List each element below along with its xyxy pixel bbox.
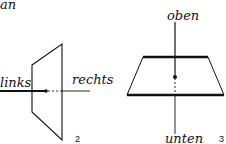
label-oben: oben bbox=[167, 8, 199, 23]
figure-3: oben unten 3 bbox=[127, 8, 224, 144]
label-rechts: rechts bbox=[72, 72, 114, 87]
figure-2: links rechts 2 bbox=[0, 44, 114, 144]
label-links: links bbox=[0, 75, 32, 90]
diagram-canvas: an links rechts 2 oben unten 3 bbox=[0, 0, 226, 144]
center-dot bbox=[173, 75, 177, 79]
trapezoid-left-edge bbox=[127, 57, 143, 95]
label-unten: unten bbox=[165, 131, 203, 144]
trapezoid-right-edge bbox=[208, 57, 224, 95]
center-dot bbox=[44, 89, 48, 93]
figure-number-2: 2 bbox=[75, 134, 80, 144]
figure-number-3: 3 bbox=[219, 134, 224, 144]
fragment-label: an bbox=[0, 0, 16, 12]
